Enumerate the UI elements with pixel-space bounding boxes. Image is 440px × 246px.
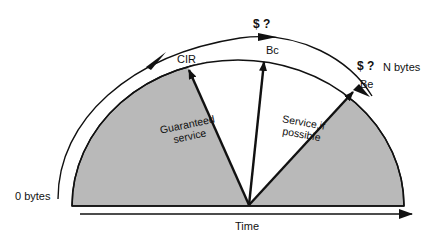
be-label: Be xyxy=(360,78,373,90)
cir-label: CIR xyxy=(177,53,196,65)
cost-bc-label: $ ? xyxy=(253,17,270,31)
cost-be-label: $ ? xyxy=(357,59,374,73)
bc-label: Bc xyxy=(266,44,279,56)
outer-arc-arrowhead-1 xyxy=(146,52,166,70)
time-label: Time xyxy=(235,220,259,232)
frame-relay-diagram: CIR Bc Be $ ? $ ? N bytes 0 bytes Time G… xyxy=(0,0,440,246)
outer-arc-arrowhead-2 xyxy=(258,33,277,41)
zero-bytes-label: 0 bytes xyxy=(15,190,51,202)
n-bytes-label: N bytes xyxy=(383,61,421,73)
